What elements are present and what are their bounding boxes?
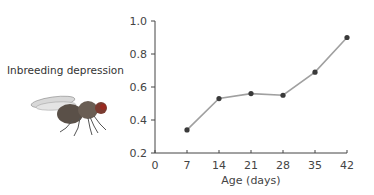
y-tick-label: 0.6 bbox=[130, 81, 148, 94]
axes: 0.20.40.60.81.0071421283542 bbox=[130, 15, 355, 172]
y-tick-label: 0.4 bbox=[130, 114, 148, 127]
y-tick-label: 0.8 bbox=[130, 48, 148, 61]
line-chart: 0.20.40.60.81.0071421283542 Age (days) bbox=[0, 0, 374, 195]
data-point bbox=[184, 127, 189, 132]
x-tick-label: 42 bbox=[340, 159, 354, 172]
y-tick-label: 1.0 bbox=[130, 15, 148, 28]
x-axis-label: Age (days) bbox=[221, 174, 280, 187]
x-tick-label: 0 bbox=[152, 159, 159, 172]
data-point bbox=[344, 35, 349, 40]
data-point bbox=[312, 70, 317, 75]
data-point bbox=[216, 96, 221, 101]
y-tick-label: 0.2 bbox=[130, 147, 148, 160]
x-tick-label: 14 bbox=[212, 159, 226, 172]
x-tick-label: 28 bbox=[276, 159, 290, 172]
data-point bbox=[280, 93, 285, 98]
plot-area bbox=[184, 35, 349, 133]
data-point bbox=[248, 91, 253, 96]
x-tick-label: 21 bbox=[244, 159, 258, 172]
data-line bbox=[187, 38, 347, 130]
x-tick-label: 7 bbox=[184, 159, 191, 172]
x-tick-label: 35 bbox=[308, 159, 322, 172]
